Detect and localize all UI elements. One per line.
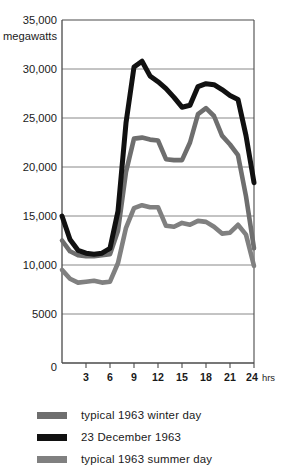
y-tick-label-5000: 5000 <box>32 308 57 320</box>
x-axis-hrs-label: hrs <box>262 372 275 383</box>
x-tick-label-24: 24 <box>246 371 258 383</box>
x-axis-tick-labels: 3 6 9 12 15 18 21 24 hrs <box>83 371 275 383</box>
x-tick-label-15: 15 <box>176 371 188 383</box>
x-tick-label-6: 6 <box>107 371 113 383</box>
plot-frame <box>62 20 254 363</box>
legend-swatch-winter <box>37 412 67 419</box>
y-axis-unit-label: megawatts <box>3 30 58 42</box>
legend-swatch-summer <box>37 456 67 463</box>
y-tick-label-10000: 10,000 <box>23 259 57 271</box>
horizontal-gridlines <box>62 69 254 314</box>
y-axis-tick-labels: 35,000 30,000 25,000 20,000 15,000 10,00… <box>23 14 57 373</box>
legend-swatch-december <box>37 434 67 441</box>
x-tick-label-21: 21 <box>224 371 236 383</box>
legend-label-december: 23 December 1963 <box>81 431 181 443</box>
y-tick-label-30000: 30,000 <box>23 63 57 75</box>
x-tick-label-12: 12 <box>152 371 164 383</box>
y-tick-label-20000: 20,000 <box>23 161 57 173</box>
y-tick-label-35000: 35,000 <box>23 14 57 26</box>
series-line-typical-1963-summer-day <box>62 205 254 282</box>
y-tick-label-0: 0 <box>51 361 57 373</box>
chart-legend: typical 1963 winter day 23 December 1963… <box>0 404 289 470</box>
legend-item-summer: typical 1963 summer day <box>0 448 289 470</box>
chart-plot-area: 35,000 30,000 25,000 20,000 15,000 10,00… <box>0 0 289 400</box>
y-tick-label-25000: 25,000 <box>23 112 57 124</box>
x-tick-label-9: 9 <box>131 371 137 383</box>
x-tick-label-18: 18 <box>200 371 212 383</box>
x-axis-tick-marks <box>86 363 254 368</box>
legend-item-december: 23 December 1963 <box>0 426 289 448</box>
y-tick-label-15000: 15,000 <box>23 210 57 222</box>
power-demand-line-chart: 35,000 30,000 25,000 20,000 15,000 10,00… <box>0 0 289 471</box>
legend-item-winter: typical 1963 winter day <box>0 404 289 426</box>
series-line-23-december-1963 <box>62 61 254 254</box>
x-tick-label-3: 3 <box>83 371 89 383</box>
series-lines <box>62 61 254 282</box>
legend-label-winter: typical 1963 winter day <box>81 409 201 421</box>
legend-label-summer: typical 1963 summer day <box>81 453 212 465</box>
